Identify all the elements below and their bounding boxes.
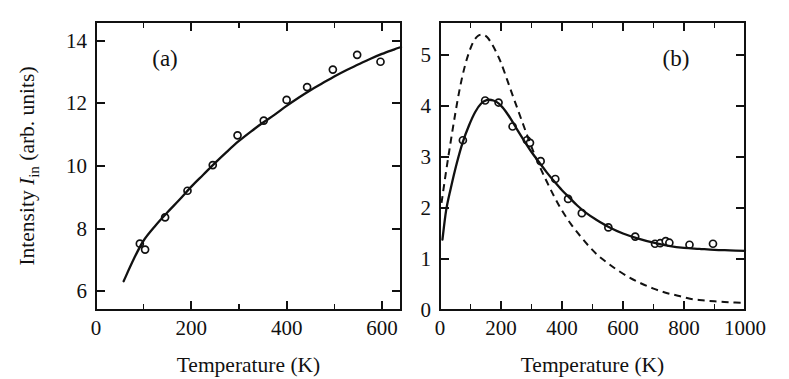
panel-b-plot: 02004006008001000012345(b)Temperature (K… <box>404 0 789 379</box>
data-point-marker <box>329 66 336 73</box>
data-point-marker <box>234 132 241 139</box>
x-tick-label: 600 <box>366 316 398 340</box>
panel-label: (b) <box>663 46 690 71</box>
panel-a-plot: 020040060068101214(a)Temperature (K)Inte… <box>0 0 404 379</box>
y-axis-label: Intensity Iin (arb. units) <box>15 66 42 265</box>
x-tick-label: 400 <box>271 316 303 340</box>
y-tick-label: 8 <box>77 217 88 241</box>
fit-curve <box>442 100 745 251</box>
data-point-marker <box>354 51 361 58</box>
panel-a: 020040060068101214(a)Temperature (K)Inte… <box>0 0 404 379</box>
y-tick-label: 4 <box>421 94 432 118</box>
y-label-pre: Intensity <box>15 185 39 266</box>
y-tick-label: 3 <box>421 145 432 169</box>
x-tick-label: 1000 <box>724 316 766 340</box>
y-label-subscript: in <box>26 166 42 178</box>
y-axis-label-text: Intensity Iin (arb. units) <box>15 66 42 265</box>
x-tick-label: 600 <box>607 316 639 340</box>
y-tick-label: 5 <box>421 43 432 67</box>
x-tick-label: 400 <box>546 316 578 340</box>
x-tick-label: 0 <box>91 316 102 340</box>
y-tick-label: 12 <box>66 91 87 115</box>
data-point-marker <box>709 240 716 247</box>
x-tick-label: 800 <box>668 316 700 340</box>
fit-curve <box>124 47 401 281</box>
data-point-marker <box>377 58 384 65</box>
figure-container: 020040060068101214(a)Temperature (K)Inte… <box>0 0 789 379</box>
y-tick-label: 2 <box>421 196 432 220</box>
data-point-marker <box>142 246 149 253</box>
y-tick-label: 1 <box>421 247 432 271</box>
x-tick-label: 200 <box>176 316 208 340</box>
panel-label: (a) <box>152 46 178 71</box>
panel-b: 02004006008001000012345(b)Temperature (K… <box>404 0 789 379</box>
x-axis-label: Temperature (K) <box>521 353 665 377</box>
data-point-marker <box>283 96 290 103</box>
x-tick-label: 200 <box>485 316 517 340</box>
x-axis-label: Temperature (K) <box>177 353 321 377</box>
y-tick-label: 14 <box>66 29 88 53</box>
plot-frame <box>440 22 745 310</box>
y-label-post: (arb. units) <box>15 66 39 166</box>
y-tick-label: 0 <box>421 298 432 322</box>
y-tick-label: 10 <box>66 154 87 178</box>
y-tick-label: 6 <box>77 279 88 303</box>
x-tick-label: 0 <box>435 316 446 340</box>
theory-dashed-curve <box>442 35 745 303</box>
